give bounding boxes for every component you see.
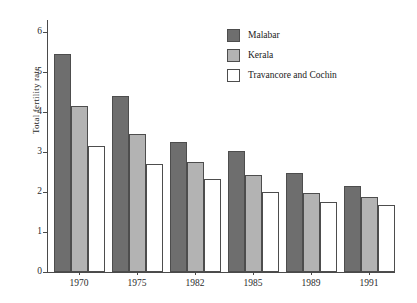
legend-swatch-icon [227, 29, 240, 42]
y-tick-label: 2 [37, 185, 42, 198]
bar[interactable] [54, 54, 71, 272]
bar[interactable] [378, 205, 395, 272]
x-tick-mark [137, 272, 138, 275]
x-axis-line [47, 272, 395, 273]
bar[interactable] [344, 186, 361, 272]
y-tick-mark [43, 192, 47, 193]
x-tick-label: 1982 [186, 277, 205, 290]
x-tick-label: 1975 [128, 277, 147, 290]
bar-group [112, 24, 163, 272]
bar[interactable] [129, 134, 146, 272]
legend-swatch-icon [227, 69, 240, 82]
bar[interactable] [88, 146, 105, 272]
bar[interactable] [320, 202, 337, 272]
bar[interactable] [361, 197, 378, 272]
x-tick-mark [311, 272, 312, 275]
bar[interactable] [228, 151, 245, 272]
y-tick-label: 4 [37, 105, 42, 118]
y-tick-label: 1 [37, 225, 42, 238]
bar[interactable] [262, 192, 279, 272]
x-tick-mark [79, 272, 80, 275]
bar[interactable] [245, 175, 262, 272]
legend: MalabarKeralaTravancore and Cochin [227, 27, 337, 87]
legend-item[interactable]: Travancore and Cochin [227, 67, 337, 83]
bar-group [170, 24, 221, 272]
legend-label: Travancore and Cochin [248, 69, 337, 82]
bar[interactable] [71, 106, 88, 272]
x-tick-label: 1985 [244, 277, 263, 290]
y-tick-mark [43, 272, 47, 273]
bar[interactable] [204, 179, 221, 272]
legend-label: Malabar [248, 29, 280, 42]
y-tick-mark [43, 72, 47, 73]
y-tick-mark [43, 232, 47, 233]
x-tick-mark [253, 272, 254, 275]
bar[interactable] [146, 164, 163, 272]
y-tick-mark [43, 152, 47, 153]
bar-group [344, 24, 395, 272]
y-tick-label: 3 [37, 145, 42, 158]
bar[interactable] [303, 193, 320, 272]
y-tick-mark [43, 112, 47, 113]
legend-label: Kerala [248, 49, 273, 62]
x-tick-mark [195, 272, 196, 275]
y-axis-line [47, 20, 48, 273]
legend-item[interactable]: Kerala [227, 47, 337, 63]
x-tick-label: 1970 [70, 277, 89, 290]
y-tick-label: 6 [37, 25, 42, 38]
y-tick-label: 5 [37, 65, 42, 78]
figure-container: Total fertility rate 0123456 19701975198… [0, 0, 417, 303]
bar[interactable] [187, 162, 204, 272]
x-tick-label: 1989 [302, 277, 321, 290]
y-tick-label: 0 [37, 265, 42, 278]
legend-item[interactable]: Malabar [227, 27, 337, 43]
y-tick-mark [43, 32, 47, 33]
plot-area: Total fertility rate 0123456 19701975198… [47, 24, 395, 272]
x-tick-mark [369, 272, 370, 275]
bar[interactable] [112, 96, 129, 272]
x-tick-label: 1991 [360, 277, 379, 290]
legend-swatch-icon [227, 49, 240, 62]
bar[interactable] [286, 173, 303, 272]
bar[interactable] [170, 142, 187, 272]
bar-group [54, 24, 105, 272]
